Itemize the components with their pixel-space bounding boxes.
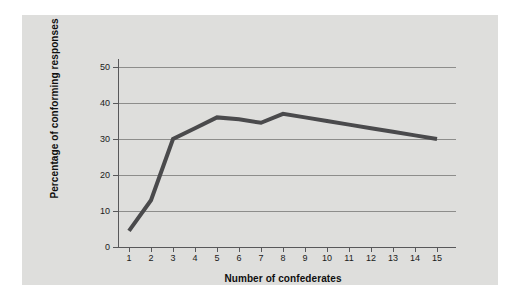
data-series-line bbox=[22, 15, 498, 285]
chart-panel: 01020304050 123456789101112131415 Number… bbox=[22, 15, 498, 285]
figure-root: 01020304050 123456789101112131415 Number… bbox=[0, 0, 524, 303]
x-axis-title: Number of confederates bbox=[118, 273, 448, 284]
y-axis-title: Percentage of conforming responses bbox=[49, 0, 60, 259]
